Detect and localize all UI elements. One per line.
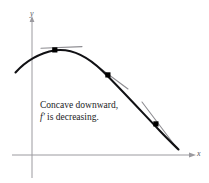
concavity-annotation: Concave downward, f′ is decreasing.: [40, 99, 150, 123]
annotation-line-1: Concave downward,: [40, 99, 150, 111]
curve-point-3: [153, 121, 158, 126]
x-axis-arrowhead: [189, 152, 196, 157]
curve-point-2: [105, 72, 110, 77]
curve-point-1: [52, 47, 57, 52]
x-axis-label: x: [197, 150, 201, 158]
plot-canvas: [0, 0, 209, 183]
y-axis-label: y: [30, 10, 34, 18]
annotation-line-2-text: is decreasing.: [45, 112, 99, 122]
annotation-line-2: f′ is decreasing.: [40, 111, 150, 123]
tangent-line-1: [41, 47, 82, 49]
concavity-figure: y x Concave downward, f′ is decreasing.: [0, 0, 209, 183]
